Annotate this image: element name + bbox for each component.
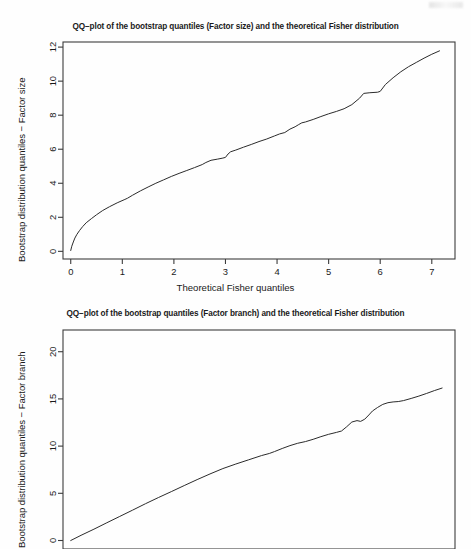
y-tick-label: 10: [48, 76, 59, 86]
x-tick-label: 4: [274, 266, 279, 277]
figure-factor-branch: QQ−plot of the bootstrap quantiles (Fact…: [0, 296, 471, 549]
y-tick-label: 2: [48, 215, 59, 220]
y-tick-label: 12: [48, 42, 59, 52]
y-tick-label: 8: [48, 113, 59, 118]
x-tick-label: 6: [378, 266, 383, 277]
y-tick-label: 20: [48, 346, 59, 356]
qq-curve: [71, 51, 440, 251]
y-tick-label: 6: [48, 147, 59, 152]
plot-frame: [63, 42, 455, 259]
y-tick-label: 0: [48, 538, 59, 543]
y-tick-label: 4: [48, 181, 59, 186]
plot-area-factor-size: 02468101201234567: [0, 0, 471, 302]
x-tick-label: 1: [120, 266, 125, 277]
y-tick-label: 5: [48, 491, 59, 496]
page-canvas: QQ−plot of the bootstrap quantiles (Fact…: [0, 0, 471, 549]
x-tick-label: 0: [68, 266, 73, 277]
figure-factor-size: QQ−plot of the bootstrap quantiles (Fact…: [0, 0, 471, 302]
y-tick-label: 10: [48, 441, 59, 451]
y-tick-label: 15: [48, 394, 59, 404]
plot-frame: [63, 330, 455, 549]
plot-area-factor-branch: 05101520: [0, 296, 471, 549]
x-tick-label: 3: [223, 266, 228, 277]
x-tick-label: 7: [429, 266, 434, 277]
x-tick-label: 2: [171, 266, 176, 277]
qq-curve: [71, 388, 442, 540]
x-tick-label: 5: [326, 266, 331, 277]
y-tick-label: 0: [48, 249, 59, 254]
